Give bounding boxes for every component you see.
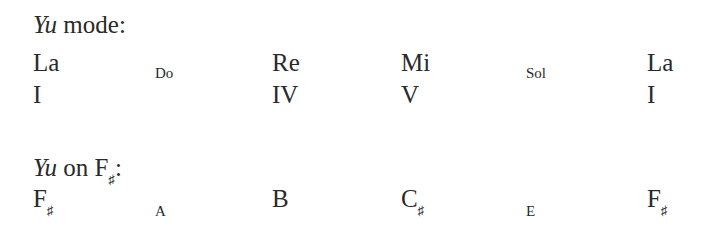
- yu-on-heading-rest: on F: [57, 154, 108, 181]
- note-f-sharp-1: F♯: [33, 186, 53, 211]
- sharp-icon: ♯: [661, 204, 668, 217]
- yu-mode-heading-rest: mode:: [57, 11, 126, 38]
- sharp-icon: ♯: [109, 173, 116, 186]
- numeral-i-2: I: [647, 82, 655, 107]
- yu-mode-heading-italic: Yu: [33, 11, 57, 38]
- numeral-v: V: [401, 82, 419, 107]
- numeral-iv: IV: [272, 82, 298, 107]
- sharp-icon: ♯: [418, 204, 425, 217]
- note-b: B: [272, 186, 289, 211]
- degree-re: Re: [272, 50, 300, 75]
- yu-on-heading-italic: Yu: [33, 154, 57, 181]
- note-letter: C: [401, 185, 418, 212]
- note-letter: F: [33, 185, 47, 212]
- degree-la-2: La: [647, 50, 673, 75]
- note-e: E: [526, 204, 535, 219]
- degree-do: Do: [155, 66, 173, 81]
- yu-on-heading-colon: :: [115, 154, 122, 181]
- numeral-i-1: I: [33, 82, 41, 107]
- sharp-icon: ♯: [47, 204, 54, 217]
- note-f-sharp-2: F♯: [647, 186, 667, 211]
- degree-sol: Sol: [526, 66, 546, 81]
- degree-mi: Mi: [401, 50, 430, 75]
- note-letter: F: [647, 185, 661, 212]
- note-c-sharp: C♯: [401, 186, 424, 211]
- note-a: A: [155, 204, 166, 219]
- degree-la-1: La: [33, 50, 59, 75]
- yu-on-f-sharp-heading: Yu on F♯:: [33, 155, 122, 180]
- yu-mode-heading: Yu mode:: [33, 12, 126, 37]
